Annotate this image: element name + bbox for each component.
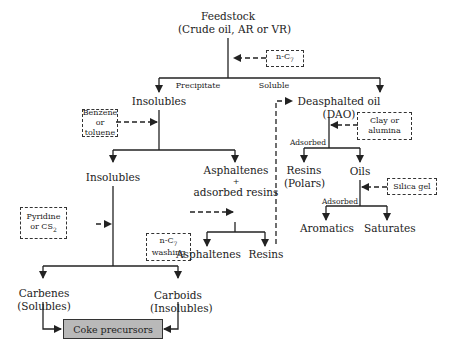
node-carboids: Carboids (Insolubles) (150, 289, 206, 315)
polars-label: (Polars) (284, 177, 324, 190)
edge-label-adsorbed-dao: Adsorbed (288, 136, 328, 149)
carbenes-label: Carbenes (16, 287, 72, 300)
node-asphaltenes: Asphaltenes (176, 248, 240, 261)
node-feedstock: Feedstock (Crude oil, AR or VR) (178, 10, 278, 36)
edge-label-soluble: Soluble (254, 81, 294, 91)
clay-label: Clay or (368, 116, 401, 126)
feedstock-sublabel: (Crude oil, AR or VR) (178, 23, 278, 36)
node-oils: Oils (346, 165, 374, 178)
pyridine-label: Pyridine (27, 212, 61, 222)
nc7-washing-solvent: n-C7 (152, 236, 186, 249)
node-resins: Resins (246, 248, 286, 261)
node-carbenes: Carbenes (Solubles) (16, 287, 72, 313)
nc7-label: n-C7 (276, 52, 294, 65)
node-asphaltenes-adsorbed-resins: Asphaltenes + adsorbed resins (190, 164, 282, 199)
solvent-box-silica-gel: Silica gel (387, 178, 437, 195)
edge-label-precipitate: Precipitate (168, 81, 228, 91)
solvent-box-pyridine: Pyridine or CS2 (20, 207, 67, 239)
adsorbed-resins-label: adsorbed resins (190, 186, 282, 199)
node-insolubles-1: Insolubles (124, 95, 194, 108)
edge-label-adsorbed-oils: Adsorbed (320, 195, 360, 208)
insolubles-label: (Insolubles) (150, 302, 206, 315)
node-insolubles-2: Insolubles (78, 171, 148, 184)
toluene-label: or toluene (83, 118, 118, 138)
solvent-box-benzene: Benzene or toluene (82, 109, 118, 137)
carboids-label: Carboids (150, 289, 206, 302)
plus-sign: + (190, 177, 282, 186)
node-coke-precursors: Coke precursors (63, 319, 163, 339)
asphaltenes-label: Asphaltenes (190, 164, 282, 177)
solvent-box-clay: Clay or alumina (357, 112, 412, 140)
solubles-label: (Solubles) (16, 300, 72, 313)
node-aromatics: Aromatics (300, 222, 354, 235)
alumina-label: alumina (368, 126, 401, 136)
resins-polars-label: Resins (284, 164, 324, 177)
feedstock-label: Feedstock (178, 10, 278, 23)
node-saturates: Saturates (364, 222, 414, 235)
cs2-label: or CS2 (27, 222, 61, 235)
benzene-label: Benzene (83, 108, 118, 118)
dao-label: Deasphalted oil (294, 95, 384, 108)
solvent-box-nc7: n-C7 (266, 50, 304, 67)
node-resins-polars: Resins (Polars) (284, 164, 324, 190)
